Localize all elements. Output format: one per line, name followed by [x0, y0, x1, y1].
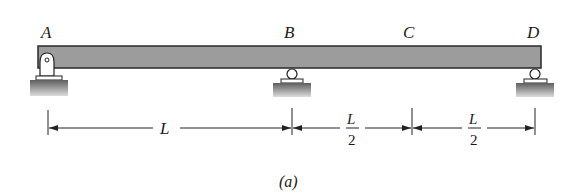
dimension-label-ab: L — [159, 119, 169, 138]
dimension-bc: L 2 — [293, 111, 411, 148]
beam-diagram: A B C D L L 2 L 2 (a) — [0, 0, 582, 195]
dimension-ab: L — [49, 119, 291, 138]
dimension-cd: L 2 — [413, 111, 534, 148]
ground-hatch-b — [273, 83, 311, 97]
dimension-denominator-bc: 2 — [348, 132, 356, 148]
figure-caption: (a) — [279, 173, 298, 191]
point-label-a: A — [40, 23, 52, 42]
point-label-b: B — [284, 23, 295, 42]
dimension-ticks — [48, 108, 535, 135]
point-label-c: C — [403, 23, 415, 42]
roller-support-b — [273, 69, 311, 97]
roller-support-d — [516, 69, 554, 97]
ground-hatch-d — [516, 83, 554, 97]
dimension-numerator-cd: L — [468, 111, 477, 127]
beam — [38, 46, 541, 68]
ground-hatch-a — [30, 80, 68, 96]
point-label-d: D — [526, 23, 540, 42]
dimension-denominator-cd: 2 — [470, 132, 478, 148]
dimension-numerator-bc: L — [346, 111, 355, 127]
